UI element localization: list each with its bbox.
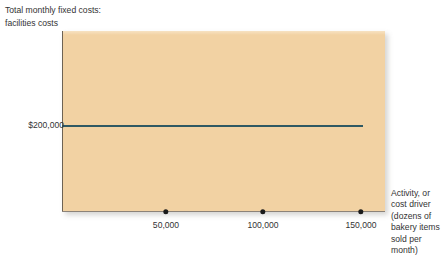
y-axis-tick-label: $200,000 — [28, 120, 64, 131]
fixed-cost-line — [62, 125, 363, 127]
chart-title: Total monthly fixed costs: facilities co… — [5, 4, 195, 29]
plot-top-highlight — [62, 31, 385, 35]
x-axis-caption: Activity, or cost driver (dozens of bake… — [391, 188, 448, 256]
x-tick-label: 100,000 — [247, 220, 278, 231]
plot-area — [62, 31, 385, 212]
x-axis-line — [62, 211, 385, 212]
x-tick-label: 150,000 — [345, 220, 376, 231]
x-tick-dot — [260, 209, 265, 214]
x-tick-dot — [163, 209, 168, 214]
x-tick-label: 50,000 — [153, 220, 179, 231]
x-tick-dot — [358, 209, 363, 214]
